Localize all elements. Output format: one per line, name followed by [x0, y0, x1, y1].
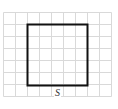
square-shape — [28, 25, 88, 86]
square-label: S — [54, 88, 61, 98]
